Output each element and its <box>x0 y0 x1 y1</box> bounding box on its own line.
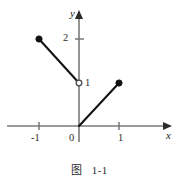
right-branch-segment <box>79 83 119 126</box>
function-graph-plot <box>0 0 179 185</box>
left-branch-segment <box>39 39 79 83</box>
x-tick-label-one: 1 <box>118 133 123 144</box>
closed-point-neg1-2 <box>36 36 42 42</box>
open-point-0-1 <box>76 80 82 86</box>
x-tick-label-zero: 0 <box>69 133 74 144</box>
y-axis-arrowhead <box>75 10 83 19</box>
figure-caption: 图1-1 <box>0 161 179 177</box>
x-tick-label-neg1: -1 <box>31 133 40 144</box>
x-axis-label: x <box>166 130 171 141</box>
y-tick-label-2: 2 <box>63 33 68 44</box>
figure-caption-number: 1-1 <box>92 164 108 176</box>
figure-container: y x 2 1 -1 0 1 图1-1 <box>0 0 179 185</box>
y-axis-label: y <box>70 8 75 19</box>
closed-point-1-1 <box>116 80 122 86</box>
figure-caption-label: 图 <box>71 164 83 176</box>
y-tick-label-1: 1 <box>85 78 90 89</box>
